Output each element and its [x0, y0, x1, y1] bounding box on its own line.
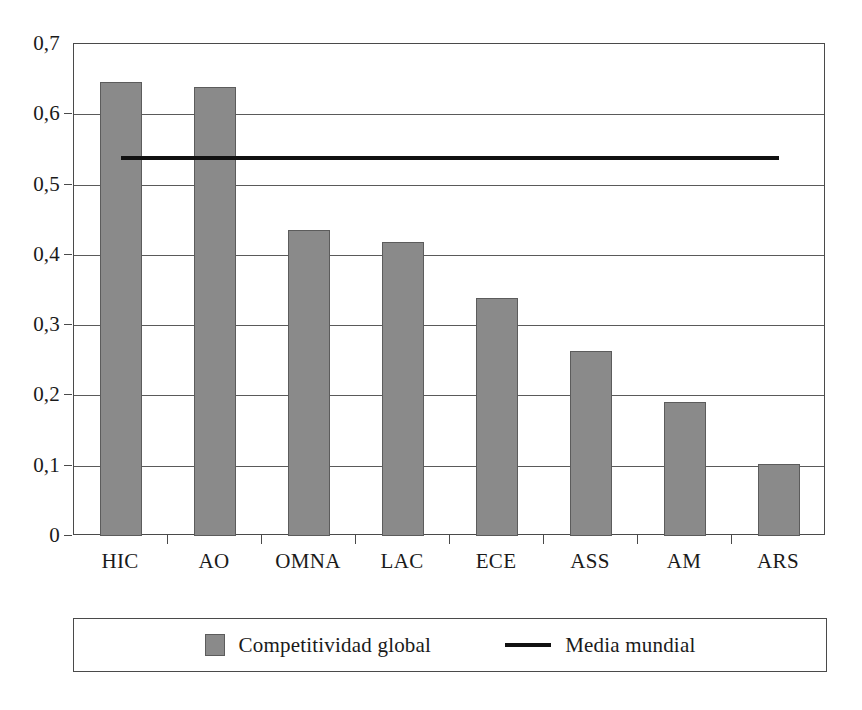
- legend-entry-1: Competitividad global: [205, 634, 432, 656]
- x-tick-label-hic: HIC: [101, 548, 138, 575]
- x-tick-label-ece: ECE: [476, 548, 517, 575]
- gridline: [74, 325, 824, 326]
- bar-chart-figure: 0,70,60,50,40,30,20,10 HICAOOMNALACECEAS…: [0, 0, 862, 710]
- y-tick-label: 0,6: [33, 103, 60, 124]
- x-tick-label-omna: OMNA: [275, 548, 340, 575]
- legend-label: Media mundial: [565, 635, 695, 656]
- legend-entry-2: Media mundial: [505, 635, 695, 656]
- y-tick-label: 0,3: [33, 314, 60, 335]
- x-axis-labels: HICAOOMNALACECEASSAMARS: [73, 548, 825, 582]
- y-tick-mark: [64, 465, 72, 466]
- bar-ass: [570, 351, 612, 536]
- plot-area: [73, 43, 825, 535]
- x-tick-mark: [355, 535, 356, 544]
- legend-entries: Competitividad globalMedia mundial: [74, 619, 826, 671]
- y-tick-mark: [64, 394, 72, 395]
- gridline: [74, 185, 824, 186]
- x-tick-label-am: AM: [667, 548, 701, 575]
- y-tick-label: 0,7: [33, 33, 60, 54]
- bar-ece: [476, 298, 518, 536]
- y-tick-mark: [64, 535, 72, 536]
- y-tick-mark: [64, 184, 72, 185]
- y-tick-label: 0: [49, 525, 60, 546]
- legend-label: Competitividad global: [239, 635, 432, 656]
- gridline: [74, 114, 824, 115]
- bar-ars: [758, 464, 800, 536]
- line-swatch-icon: [505, 643, 551, 647]
- x-tick-mark: [543, 535, 544, 544]
- mean-world-line: [121, 156, 779, 160]
- x-tick-mark: [637, 535, 638, 544]
- y-tick-mark: [64, 324, 72, 325]
- bar-lac: [382, 242, 424, 536]
- bar-ao: [194, 87, 236, 536]
- gridline: [74, 466, 824, 467]
- bar-hic: [100, 82, 142, 536]
- x-tick-mark: [167, 535, 168, 544]
- x-tick-label-ass: ASS: [570, 548, 609, 575]
- y-tick-label: 0,5: [33, 173, 60, 194]
- y-tick-mark: [64, 254, 72, 255]
- x-tick-mark: [449, 535, 450, 544]
- bar-am: [664, 402, 706, 536]
- y-tick-label: 0,2: [33, 384, 60, 405]
- gridline: [74, 255, 824, 256]
- y-tick-label: 0,4: [33, 243, 60, 264]
- y-axis: 0,70,60,50,40,30,20,10: [0, 43, 68, 535]
- y-tick-mark: [64, 113, 72, 114]
- y-tick-label: 0,1: [33, 454, 60, 475]
- x-tick-label-ao: AO: [199, 548, 230, 575]
- x-axis-ticks: [73, 535, 825, 545]
- x-tick-mark: [731, 535, 732, 544]
- x-tick-label-lac: LAC: [381, 548, 424, 575]
- x-tick-mark: [261, 535, 262, 544]
- chart-legend: Competitividad globalMedia mundial: [73, 618, 827, 672]
- bar-swatch-icon: [205, 634, 225, 656]
- gridline: [74, 395, 824, 396]
- bar-omna: [288, 230, 330, 536]
- x-tick-label-ars: ARS: [757, 548, 799, 575]
